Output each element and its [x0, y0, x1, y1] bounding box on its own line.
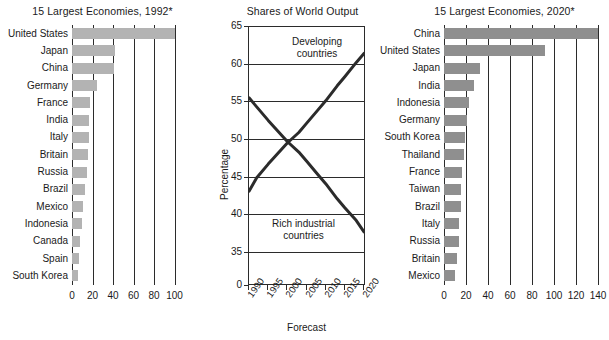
bar — [72, 45, 115, 56]
left-bar-chart-panel: 15 Largest Economies, 1992* United State… — [0, 0, 205, 340]
bar-category-label: United States — [8, 28, 68, 39]
left-chart-title: 15 Largest Economies, 1992* — [0, 5, 205, 17]
series-label-developing-line1: Developing — [292, 36, 342, 47]
bar-category-label: Brazil — [43, 183, 68, 194]
bar — [444, 149, 464, 160]
y-tick-mark — [244, 64, 248, 65]
y-tick-label: 60 — [206, 58, 242, 69]
y-tick-label: 0 — [206, 279, 242, 290]
bar-category-label: China — [42, 62, 68, 73]
bar-category-label: Brazil — [415, 201, 440, 212]
gridline — [248, 177, 365, 178]
bar — [444, 167, 462, 178]
bar-category-label: Japan — [41, 45, 68, 56]
bar — [72, 115, 89, 126]
bar-category-label: Italy — [422, 218, 440, 229]
bar — [72, 236, 80, 247]
middle-chart-x-axis-caption: Forecast — [248, 322, 365, 333]
bar — [444, 184, 461, 195]
bar-category-label: United States — [380, 45, 440, 56]
bar-category-label: Mexico — [36, 201, 68, 212]
bar-category-label: Japan — [413, 62, 440, 73]
gridline — [248, 214, 365, 215]
bar — [444, 97, 469, 108]
bar-category-label: Germany — [399, 114, 440, 125]
bar — [444, 218, 459, 229]
bar — [444, 45, 545, 56]
bar — [72, 63, 114, 74]
bar — [444, 132, 465, 143]
bar — [72, 253, 79, 264]
bar — [72, 270, 78, 281]
bar — [72, 218, 82, 229]
middle-line-chart-panel: Shares of World Output 656055504540350 1… — [205, 0, 400, 340]
bar — [444, 28, 598, 39]
x-tick-label: 100 — [159, 290, 191, 301]
series-label-rich-line1: Rich industrial — [272, 218, 335, 229]
middle-chart-title: Shares of World Output — [205, 5, 400, 17]
bar — [72, 201, 83, 212]
y-tick-label: 50 — [206, 133, 242, 144]
bar-category-label: Indonesia — [397, 97, 440, 108]
gridline — [576, 25, 577, 285]
x-tick-label: 140 — [582, 290, 609, 301]
series-label-rich-industrial: Rich industrial countries — [251, 218, 356, 241]
series-label-rich-line2: countries — [283, 230, 324, 241]
bar-category-label: Mexico — [408, 270, 440, 281]
bar-category-label: Germany — [27, 80, 68, 91]
bar — [72, 149, 88, 160]
gridline — [510, 25, 511, 285]
bar-category-label: Canada — [33, 235, 68, 246]
bar-category-label: South Korea — [12, 270, 68, 281]
bar-category-label: Taiwan — [409, 183, 440, 194]
bar — [72, 97, 90, 108]
middle-chart-y-axis-label: Percentage — [219, 149, 230, 200]
gridline — [248, 64, 365, 65]
bar-category-label: China — [414, 28, 440, 39]
middle-chart-lines — [249, 27, 364, 284]
y-tick-mark — [244, 101, 248, 102]
bar-category-label: Indonesia — [25, 218, 68, 229]
bar-category-label: Russia — [37, 166, 68, 177]
y-tick-mark — [244, 26, 248, 27]
bar — [444, 270, 455, 281]
bar-category-label: Britain — [412, 253, 440, 264]
y-tick-mark — [244, 139, 248, 140]
gridline — [248, 139, 365, 140]
gridline — [532, 25, 533, 285]
y-tick-label: 40 — [206, 208, 242, 219]
bar-category-label: South Korea — [384, 131, 440, 142]
bar-category-label: France — [409, 166, 440, 177]
right-chart-title: 15 Largest Economies, 2020* — [400, 5, 609, 17]
gridline — [248, 252, 365, 253]
bar — [444, 63, 480, 74]
bar-category-label: Spain — [42, 253, 68, 264]
right-bar-chart-panel: 15 Largest Economies, 2020* ChinaUnited … — [400, 0, 609, 340]
y-tick-mark — [244, 252, 248, 253]
bar-category-label: France — [37, 97, 68, 108]
bar-category-label: India — [418, 80, 440, 91]
gridline — [598, 25, 599, 285]
y-tick-label: 55 — [206, 95, 242, 106]
bar-category-label: Russia — [409, 235, 440, 246]
bar — [72, 28, 175, 39]
middle-chart-plot-area — [248, 26, 365, 285]
gridline — [154, 25, 155, 285]
bar-category-label: Thailand — [402, 149, 440, 160]
bar — [72, 167, 87, 178]
series-label-developing: Developing countries — [277, 36, 357, 59]
y-tick-label: 35 — [206, 246, 242, 257]
series-label-developing-line2: countries — [297, 48, 338, 59]
y-tick-label: 65 — [206, 20, 242, 31]
bar — [444, 253, 457, 264]
bar — [444, 201, 461, 212]
bar — [444, 236, 459, 247]
bar — [444, 115, 467, 126]
bar-category-label: India — [46, 114, 68, 125]
bar — [72, 184, 85, 195]
gridline — [488, 25, 489, 285]
bar-category-label: Italy — [50, 131, 68, 142]
gridline — [248, 101, 365, 102]
bar-category-label: Britain — [40, 149, 68, 160]
y-tick-mark — [244, 214, 248, 215]
